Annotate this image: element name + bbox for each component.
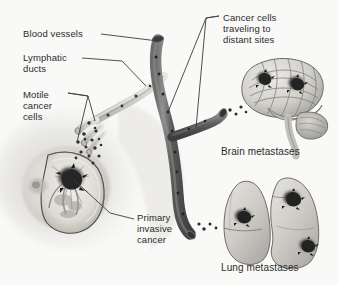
brain-lateral-view [242,58,328,156]
leader-traveling-b [196,16,219,128]
leader-lymphatic-ducts [82,58,146,86]
label-lymphatic-ducts: Lymphatic ducts [23,52,67,74]
metastasis-figure: Blood vessels Lymphatic ducts Motile can… [0,0,338,285]
caption-brain-metastases: Brain metastases [221,146,300,157]
lungs-anterior-view [224,178,319,269]
cells-to-lung [197,222,217,230]
label-blood-vessels: Blood vessels [23,28,83,39]
label-primary-invasive-cancer: Primary invasive cancer [137,212,172,246]
label-motile-cancer-cells: Motile cancer cells [23,89,52,123]
leader-traveling-a [168,16,219,112]
leader-blood-vessels [101,34,158,41]
caption-lung-metastases: Lung metastases [221,262,299,273]
label-cancer-cells-traveling: Cancer cells traveling to distant sites [223,12,276,46]
cells-to-brain [228,105,247,115]
